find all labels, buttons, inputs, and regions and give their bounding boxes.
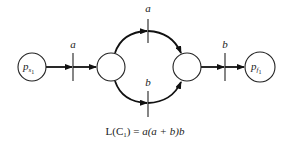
transition-upper-label: a bbox=[145, 2, 151, 14]
edge-t-upper-to-mid-right bbox=[148, 31, 181, 53]
equation-equals: ) = bbox=[127, 125, 142, 137]
place-final bbox=[245, 52, 275, 82]
edge-mid-left-to-t-upper bbox=[115, 31, 147, 53]
language-equation: L(C1) = a(a + b)b bbox=[0, 125, 290, 139]
equation-lhs: L(C bbox=[106, 125, 124, 137]
place-mid-left bbox=[97, 53, 125, 81]
equation-rhs: a(a + b)b bbox=[142, 125, 184, 137]
edge-mid-left-to-t-lower bbox=[115, 81, 147, 103]
transition-in-label: a bbox=[70, 38, 76, 50]
place-mid-right bbox=[173, 53, 201, 81]
transition-lower-label: b bbox=[145, 76, 151, 88]
transition-out-label: b bbox=[222, 38, 228, 50]
edge-t-lower-to-mid-right bbox=[148, 82, 181, 103]
